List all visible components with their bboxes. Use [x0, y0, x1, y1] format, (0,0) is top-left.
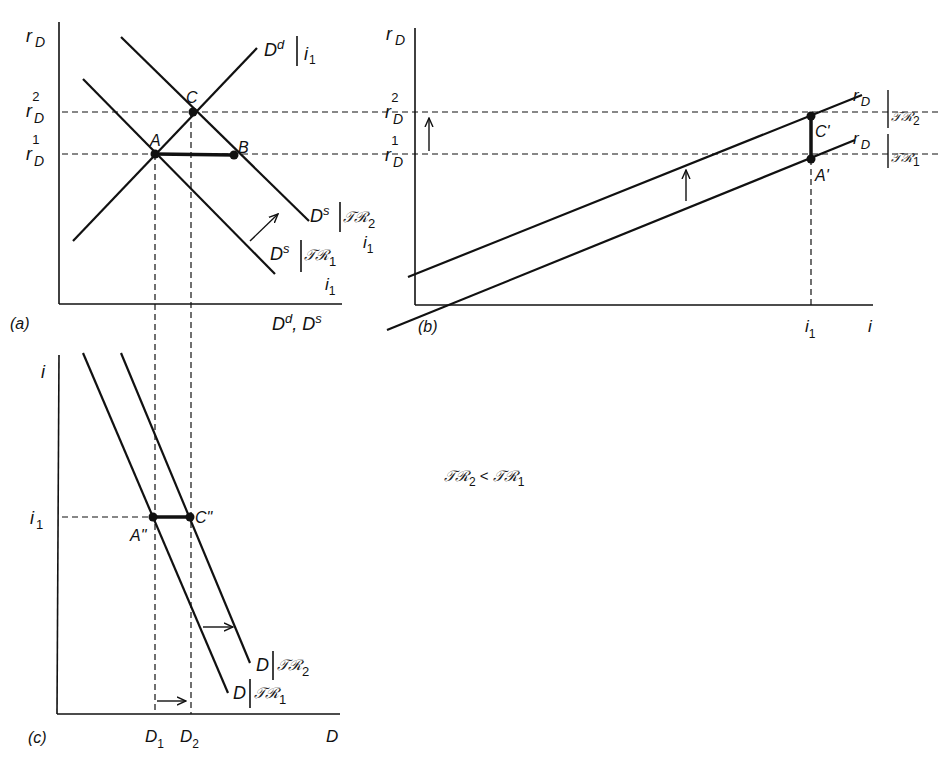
- label-A-double-prime: A": [129, 527, 148, 544]
- label-supply-tr1-i1: i1: [325, 275, 336, 298]
- rd-curve-tr1: [387, 140, 855, 330]
- tick-r2-b: rD2: [385, 90, 403, 127]
- label-supply-tr2-i1: i1: [363, 233, 374, 256]
- label-supply-tr1-cond: 𝒯ℛ1: [304, 246, 336, 269]
- supply-curve-tr2: [121, 37, 309, 221]
- tick-r1-b: rD1: [385, 133, 403, 170]
- diagram-canvas: rD rD2 rD1 A B C Dd i1 Ds 𝒯ℛ2 i1 Ds 𝒯ℛ1 …: [0, 0, 938, 776]
- label-C: C: [186, 89, 198, 106]
- segment-AB: [155, 154, 234, 155]
- panel-a-y-label: rD: [26, 26, 45, 50]
- label-rd-tr2: rD: [853, 86, 870, 109]
- tick-i1-c: i1: [30, 508, 43, 532]
- tick-D1: D1: [145, 727, 164, 751]
- panel-b-tag: (b): [418, 318, 438, 335]
- label-demand-curve: Dd: [264, 37, 285, 60]
- label-supply-tr1: Ds: [270, 241, 290, 264]
- panel-a: rD rD2 rD1 A B C Dd i1 Ds 𝒯ℛ2 i1 Ds 𝒯ℛ1 …: [10, 22, 938, 714]
- point-A-double-prime: [149, 513, 158, 522]
- label-rd-tr1: rD: [853, 129, 870, 152]
- panel-b-y-label: rD: [386, 24, 405, 48]
- label-demand-tr1: D: [233, 683, 246, 703]
- shift-arrow-a: [250, 214, 278, 241]
- label-A: A: [149, 132, 161, 149]
- panel-c-x-label: D: [326, 727, 338, 746]
- tick-D2: D2: [180, 727, 199, 751]
- label-B: B: [238, 139, 249, 156]
- panel-c-y-label: i: [41, 362, 46, 382]
- label-demand-tr1-cond: 𝒯ℛ1: [254, 684, 286, 707]
- point-A-prime: [807, 155, 816, 164]
- panel-b: rD rD2 rD1 C' A' rD 𝒯ℛ2 rD 𝒯ℛ1 (b) i1 i: [385, 24, 920, 341]
- point-A: [151, 150, 160, 159]
- panel-a-tag: (a): [10, 315, 30, 332]
- label-C-prime: C': [815, 123, 831, 140]
- demand-curve-tr2: [121, 353, 250, 663]
- label-C-double-prime: C": [195, 509, 214, 526]
- label-demand-tr2: D: [256, 655, 269, 675]
- tr-inequality-annotation: 𝒯ℛ2 < 𝒯ℛ1: [444, 467, 525, 489]
- supply-curve-tr1: [83, 79, 275, 274]
- panel-c-tag: (c): [28, 729, 47, 746]
- point-C-prime: [807, 112, 816, 121]
- point-C-double-prime: [186, 513, 195, 522]
- label-A-prime: A': [814, 167, 830, 184]
- label-rd-tr1-cond: 𝒯ℛ1: [891, 150, 920, 169]
- rd-curve-tr2: [408, 95, 862, 277]
- panel-b-x-label: i: [868, 317, 873, 336]
- tick-r1-a: rD1: [26, 132, 44, 169]
- tick-i1-b: i1: [805, 317, 816, 341]
- tick-r2-a: rD2: [26, 89, 44, 126]
- label-supply-tr2: Ds: [310, 203, 330, 226]
- panel-a-x-label: Dd, Ds: [272, 311, 322, 334]
- label-demand-cond: i1: [304, 44, 316, 67]
- panel-c-y-axis: [57, 355, 59, 714]
- label-demand-tr2-cond: 𝒯ℛ2: [277, 656, 309, 679]
- label-supply-tr2-cond: 𝒯ℛ2: [343, 208, 375, 231]
- point-C: [189, 108, 198, 117]
- panel-c: i i1 A" C" D 𝒯ℛ2 D 𝒯ℛ1 (c) D1 D2 D: [28, 353, 340, 751]
